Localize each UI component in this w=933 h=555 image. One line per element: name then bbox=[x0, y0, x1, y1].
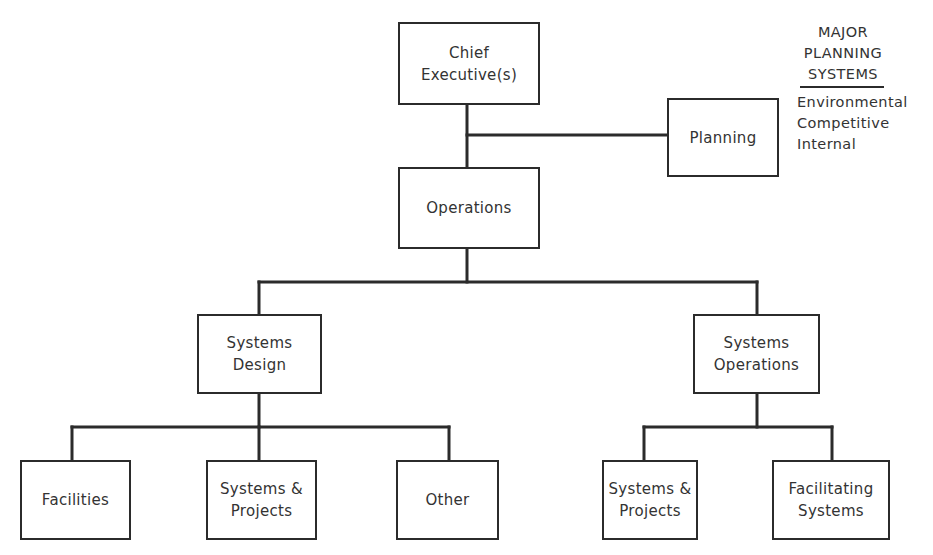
node-operations: Operations bbox=[398, 167, 540, 249]
node-label: Operations bbox=[714, 354, 799, 376]
legend-item: Competitive bbox=[782, 113, 932, 134]
node-label: Operations bbox=[426, 197, 511, 219]
legend-title-line: MAJOR bbox=[782, 22, 904, 43]
node-label: Facilities bbox=[42, 489, 109, 511]
legend-underline bbox=[800, 86, 884, 88]
node-label: Chief bbox=[449, 42, 489, 64]
node-other: Other bbox=[396, 460, 499, 540]
legend-title-line: SYSTEMS bbox=[782, 64, 904, 85]
node-label: Executive(s) bbox=[421, 64, 517, 86]
legend-item: Internal bbox=[782, 134, 932, 155]
node-chief-executive: Chief Executive(s) bbox=[398, 22, 540, 105]
legend-title-line: PLANNING bbox=[782, 43, 904, 64]
legend-item: Environmental bbox=[782, 92, 932, 113]
node-label: Other bbox=[425, 489, 469, 511]
node-systems-operations: Systems Operations bbox=[693, 314, 820, 394]
node-label: Systems bbox=[724, 332, 790, 354]
node-label: Systems bbox=[798, 500, 864, 522]
node-design-systems-projects: Systems & Projects bbox=[206, 460, 317, 540]
org-chart: Chief Executive(s) Planning Operations S… bbox=[0, 0, 933, 555]
node-label: Projects bbox=[231, 500, 293, 522]
node-systems-design: Systems Design bbox=[197, 314, 322, 394]
node-label: Planning bbox=[689, 127, 756, 149]
node-facilitating-systems: Facilitating Systems bbox=[772, 460, 890, 540]
node-label: Systems & bbox=[609, 478, 692, 500]
node-planning: Planning bbox=[667, 98, 779, 177]
node-operations-systems-projects: Systems & Projects bbox=[602, 460, 698, 540]
node-label: Systems bbox=[227, 332, 293, 354]
node-facilities: Facilities bbox=[20, 460, 131, 540]
node-label: Design bbox=[233, 354, 287, 376]
planning-systems-legend: MAJOR PLANNING SYSTEMS Environmental Com… bbox=[782, 22, 932, 155]
legend-items: Environmental Competitive Internal bbox=[782, 92, 932, 155]
node-label: Facilitating bbox=[789, 478, 874, 500]
node-label: Systems & bbox=[220, 478, 303, 500]
legend-title: MAJOR PLANNING SYSTEMS bbox=[782, 22, 904, 85]
node-label: Projects bbox=[619, 500, 681, 522]
